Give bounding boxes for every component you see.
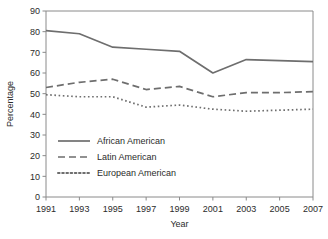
legend-label-0: African American xyxy=(97,136,165,146)
line-chart: 0102030405060708090199119931995199719992… xyxy=(0,0,328,239)
y-tick-label: 50 xyxy=(30,89,40,99)
y-tick-label: 90 xyxy=(30,6,40,16)
x-tick-label: 1993 xyxy=(69,204,89,214)
legend-label-2: European American xyxy=(97,168,176,178)
x-axis-title: Year xyxy=(170,219,188,229)
x-tick-label: 2003 xyxy=(236,204,256,214)
y-tick-label: 20 xyxy=(30,151,40,161)
chart-canvas: 0102030405060708090199119931995199719992… xyxy=(0,0,328,239)
x-tick-label: 1991 xyxy=(36,204,56,214)
x-tick-label: 1999 xyxy=(169,204,189,214)
y-tick-label: 70 xyxy=(30,48,40,58)
y-axis-title: Percentage xyxy=(5,81,15,127)
series-line-1 xyxy=(46,79,313,97)
x-tick-label: 1995 xyxy=(103,204,123,214)
series-line-2 xyxy=(46,95,313,112)
y-tick-label: 80 xyxy=(30,27,40,37)
x-tick-label: 2007 xyxy=(303,204,323,214)
series-line-0 xyxy=(46,31,313,73)
y-tick-label: 0 xyxy=(35,192,40,202)
x-tick-label: 1997 xyxy=(136,204,156,214)
y-tick-label: 30 xyxy=(30,130,40,140)
plot-frame xyxy=(46,11,313,197)
x-tick-label: 2001 xyxy=(203,204,223,214)
x-tick-label: 2005 xyxy=(270,204,290,214)
y-tick-label: 10 xyxy=(30,172,40,182)
legend-label-1: Latin American xyxy=(97,152,157,162)
y-tick-label: 60 xyxy=(30,68,40,78)
y-tick-label: 40 xyxy=(30,110,40,120)
